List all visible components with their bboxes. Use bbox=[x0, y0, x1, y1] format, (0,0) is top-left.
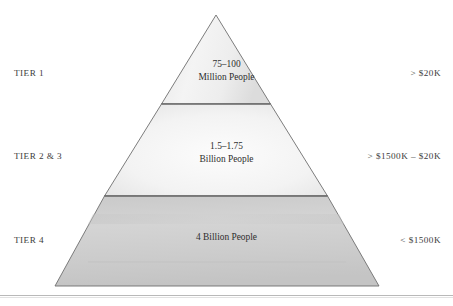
pyramid-diagram-page: TIER 1 TIER 2 & 3 TIER 4 > $20K > $1500K… bbox=[0, 0, 453, 306]
tier-4-left-label: TIER 4 bbox=[14, 236, 44, 245]
pyramid-tier-1-shape bbox=[162, 15, 271, 104]
tier-4-inner-band bbox=[88, 214, 344, 224]
tier-2-3-income-label: > $1500K – $20K bbox=[368, 152, 441, 161]
pyramid-tier-2-3-shape bbox=[105, 104, 328, 196]
pyramid-tier-4-shape bbox=[55, 196, 379, 286]
tier-2-3-left-label: TIER 2 & 3 bbox=[14, 152, 62, 161]
tier-1-income-label: > $20K bbox=[410, 69, 441, 78]
tier-4-income-label: < $1500K bbox=[400, 236, 441, 245]
bottom-divider-rule-shadow bbox=[0, 297, 453, 298]
tier-1-left-label: TIER 1 bbox=[14, 69, 44, 78]
bottom-divider-rule bbox=[0, 295, 453, 296]
